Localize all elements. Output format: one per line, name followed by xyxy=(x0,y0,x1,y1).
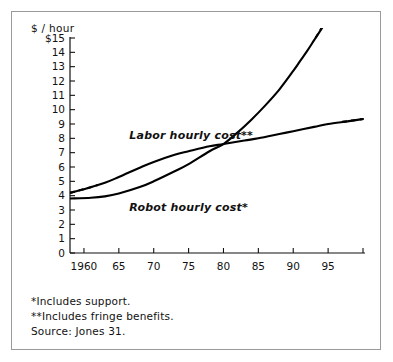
footnotes-group: *Includes support.**Includes fringe bene… xyxy=(31,295,174,337)
series-label-0: Labor hourly cost** xyxy=(129,129,253,142)
y-tick-label: 8 xyxy=(58,132,65,144)
footnote-line: *Includes support. xyxy=(31,295,131,307)
series-label-1: Robot hourly cost* xyxy=(129,201,248,214)
y-tick-label: 1 xyxy=(58,232,65,244)
x-tick-label: 70 xyxy=(147,260,160,272)
x-tick-label: 65 xyxy=(112,260,125,272)
x-tick-label: 80 xyxy=(217,260,230,272)
footnote-line: Source: Jones 31. xyxy=(31,325,125,337)
y-tick-label: 6 xyxy=(58,161,65,173)
x-tick-label: 75 xyxy=(182,260,195,272)
footnote-line: **Includes fringe benefits. xyxy=(31,310,174,322)
y-tick-label: 0 xyxy=(58,247,65,259)
x-tick-label: 1960 xyxy=(71,260,98,272)
series-group xyxy=(70,17,363,198)
y-tick-label: 13 xyxy=(52,60,65,72)
y-tick-label: 10 xyxy=(52,103,65,115)
series-curve-1 xyxy=(70,18,328,199)
x-tick-label: 95 xyxy=(321,260,334,272)
y-tick-label: 14 xyxy=(52,46,66,58)
y-tick-label: 5 xyxy=(58,175,65,187)
y-tick-label: 4 xyxy=(58,189,65,201)
y-tick-label: 12 xyxy=(52,75,65,87)
y-tick-label: 9 xyxy=(58,118,65,130)
y-tick-label: 11 xyxy=(52,89,65,101)
x-tick-label: 85 xyxy=(252,260,265,272)
y-tick-label: 2 xyxy=(58,218,65,230)
x-tick-label: 90 xyxy=(287,260,300,272)
line-chart: $ / hour 01234567891011121314$15 1960657… xyxy=(0,0,393,362)
y-tick-label: 7 xyxy=(58,146,65,158)
y-tick-label: $15 xyxy=(45,32,65,44)
figure-container: $ / hour 01234567891011121314$15 1960657… xyxy=(0,0,393,362)
series-dashed-tail-1 xyxy=(316,17,329,38)
series-label-group: Labor hourly cost**Robot hourly cost* xyxy=(129,129,253,214)
x-axis-ticks: 196065707580859095 xyxy=(71,248,363,272)
y-tick-label: 3 xyxy=(58,204,65,216)
